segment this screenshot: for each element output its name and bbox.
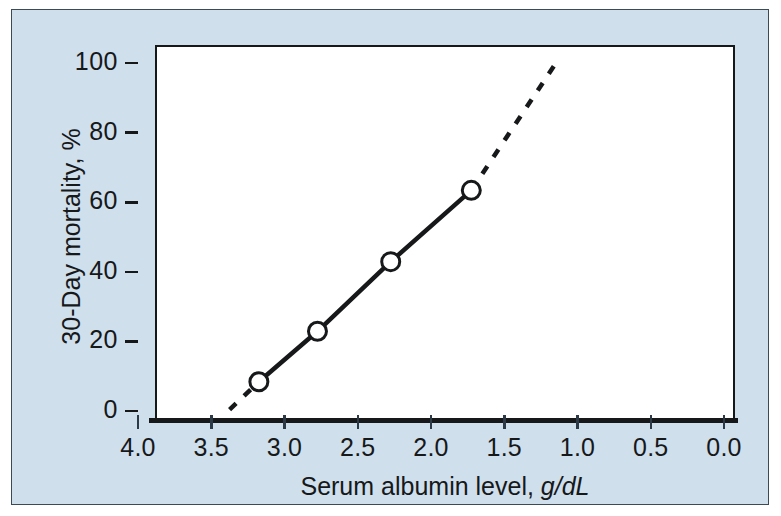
x-axis-title-main: Serum albumin level, xyxy=(300,472,540,500)
y-tick-label: 100 xyxy=(8,47,118,76)
x-axis-title: Serum albumin level, g/dL xyxy=(155,472,735,501)
y-tick-mark xyxy=(125,62,138,65)
x-tick-mark xyxy=(283,415,286,429)
x-tick-mark xyxy=(723,415,726,429)
y-tick-mark xyxy=(125,131,138,134)
x-tick-mark xyxy=(210,415,213,429)
x-axis-title-unit: g/dL xyxy=(541,472,590,500)
x-tick-mark xyxy=(137,415,140,429)
x-tick-mark xyxy=(576,415,579,429)
figure-container: 020406080100 4.03.53.02.52.01.51.00.50.0… xyxy=(0,0,781,516)
x-tick-label: 0.0 xyxy=(679,433,769,462)
y-tick-mark xyxy=(125,201,138,204)
x-tick-mark xyxy=(503,415,506,429)
x-tick-mark xyxy=(650,415,653,429)
plot-area xyxy=(155,45,735,420)
y-tick-mark xyxy=(125,340,138,343)
figure-panel: 020406080100 4.03.53.02.52.01.51.00.50.0… xyxy=(11,9,769,505)
x-tick-mark xyxy=(430,415,433,429)
y-tick-label: 0 xyxy=(8,395,118,424)
y-tick-mark xyxy=(125,410,138,413)
x-tick-mark xyxy=(357,415,360,429)
y-axis-title: 30-Day mortality, % xyxy=(57,82,86,392)
y-tick-mark xyxy=(125,271,138,274)
